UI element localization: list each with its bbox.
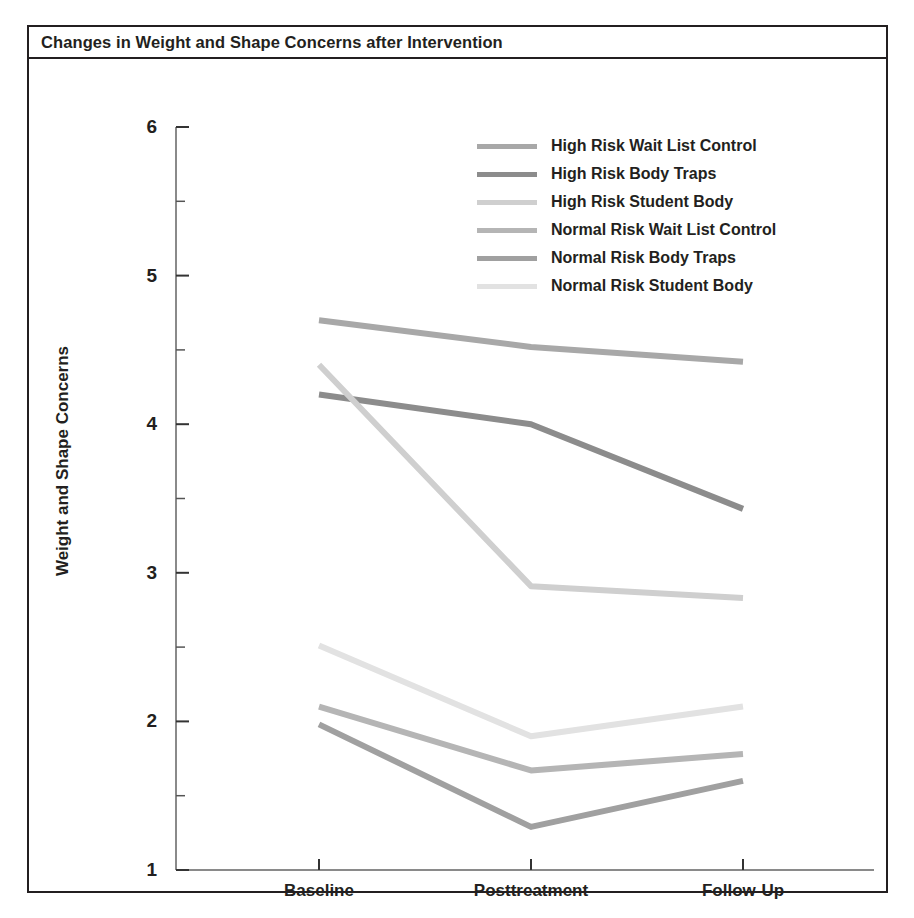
chart-legend: High Risk Wait List ControlHigh Risk Bod… [477, 132, 807, 300]
legend-item: High Risk Body Traps [477, 160, 807, 188]
x-axis-ticks [319, 859, 743, 870]
legend-swatch [477, 200, 537, 205]
legend-item: High Risk Student Body [477, 188, 807, 216]
data-series-line [319, 724, 743, 827]
legend-label: Normal Risk Wait List Control [551, 221, 776, 239]
data-series-line [319, 394, 743, 508]
legend-item: Normal Risk Body Traps [477, 244, 807, 272]
legend-swatch [477, 256, 537, 261]
legend-label: High Risk Student Body [551, 193, 733, 211]
legend-item: High Risk Wait List Control [477, 132, 807, 160]
figure-title: Changes in Weight and Shape Concerns aft… [29, 33, 503, 52]
figure-title-bar: Changes in Weight and Shape Concerns aft… [29, 27, 886, 59]
legend-label: Normal Risk Body Traps [551, 249, 736, 267]
legend-label: High Risk Body Traps [551, 165, 716, 183]
legend-label: High Risk Wait List Control [551, 137, 757, 155]
data-series-line [319, 320, 743, 362]
legend-swatch [477, 228, 537, 233]
legend-label: Normal Risk Student Body [551, 277, 753, 295]
legend-swatch [477, 144, 537, 149]
y-axis-ticks [176, 127, 189, 870]
data-series-group [319, 320, 743, 827]
legend-swatch [477, 172, 537, 177]
legend-item: Normal Risk Student Body [477, 272, 807, 300]
figure-panel: Changes in Weight and Shape Concerns aft… [27, 25, 888, 893]
legend-item: Normal Risk Wait List Control [477, 216, 807, 244]
plot-area: Weight and Shape Concerns 654321 Baselin… [29, 59, 886, 893]
legend-swatch [477, 284, 537, 289]
